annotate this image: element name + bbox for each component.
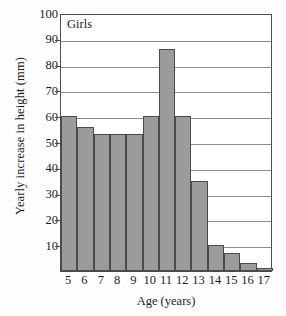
y-tick-label-100: 100	[28, 8, 58, 21]
bar-age-6	[77, 127, 93, 271]
bar-age-8	[110, 134, 126, 271]
y-axis-title: Yearly increase in height (mm)	[13, 21, 29, 251]
bar-age-13	[191, 181, 207, 271]
plot-area: Girls	[60, 14, 272, 272]
bar-age-10	[143, 116, 159, 271]
histogram-chart: Yearly increase in height (mm) 100908070…	[0, 0, 286, 316]
x-tick-label-14: 14	[207, 274, 223, 287]
y-tick-label-70: 70	[28, 85, 58, 98]
x-tick-label-15: 15	[223, 274, 239, 287]
y-axis-tick-labels: 100908070605040302010	[28, 0, 58, 316]
y-tick-label-10: 10	[28, 240, 58, 253]
x-tick-label-11: 11	[158, 274, 174, 287]
x-tick-label-7: 7	[93, 274, 109, 287]
bar-age-12	[175, 116, 191, 271]
bar-age-17	[257, 268, 273, 271]
x-tick-label-16: 16	[239, 274, 255, 287]
x-tick-label-8: 8	[109, 274, 125, 287]
x-tick-label-13: 13	[190, 274, 206, 287]
y-tick-label-20: 20	[28, 214, 58, 227]
x-axis-title: Age (years)	[60, 294, 272, 309]
bar-age-15	[224, 253, 240, 271]
bar-age-7	[94, 134, 110, 271]
bar-age-5	[61, 116, 77, 271]
bar-series	[61, 15, 271, 271]
bar-age-16	[240, 263, 256, 271]
x-axis-tick-labels: 567891011121314151617	[60, 274, 272, 292]
x-tick-label-5: 5	[60, 274, 76, 287]
bar-age-11	[159, 49, 175, 271]
x-tick-label-17: 17	[256, 274, 272, 287]
bar-age-14	[208, 245, 224, 271]
y-tick-label-50: 50	[28, 137, 58, 150]
y-tick-label-80: 80	[28, 59, 58, 72]
y-tick-label-40: 40	[28, 162, 58, 175]
y-tick-label-90: 90	[28, 33, 58, 46]
x-tick-label-9: 9	[125, 274, 141, 287]
x-tick-label-6: 6	[76, 274, 92, 287]
x-tick-label-10: 10	[142, 274, 158, 287]
y-tick-label-30: 30	[28, 188, 58, 201]
x-tick-label-12: 12	[174, 274, 190, 287]
y-tick-label-60: 60	[28, 111, 58, 124]
bar-age-9	[126, 134, 142, 271]
